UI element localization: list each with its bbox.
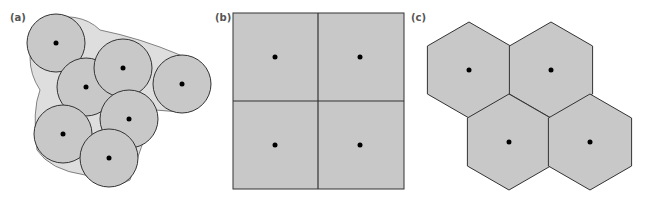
center-dot bbox=[127, 117, 132, 122]
center-dot bbox=[54, 41, 59, 46]
coverage-cell-diagram: (a) (b) (c) bbox=[0, 0, 645, 204]
panel-b-square-cells: (b) bbox=[215, 12, 404, 189]
center-dot bbox=[107, 156, 112, 161]
center-dot bbox=[358, 143, 363, 148]
panel-c-hexagonal-cells: (c) bbox=[411, 12, 632, 190]
center-dot bbox=[273, 143, 278, 148]
center-dot bbox=[61, 132, 66, 137]
panel-label-b: (b) bbox=[215, 12, 231, 23]
center-dot bbox=[273, 55, 278, 60]
center-dot bbox=[180, 82, 185, 87]
panel-label-c: (c) bbox=[411, 12, 426, 23]
center-dot bbox=[121, 66, 126, 71]
center-dot bbox=[358, 55, 363, 60]
center-dot bbox=[549, 68, 554, 73]
panel-a-circular-cells: (a) bbox=[10, 12, 211, 187]
center-dot bbox=[588, 140, 593, 145]
center-dot bbox=[84, 85, 89, 90]
center-dot bbox=[467, 68, 472, 73]
center-dot bbox=[507, 140, 512, 145]
panel-label-a: (a) bbox=[10, 12, 26, 23]
